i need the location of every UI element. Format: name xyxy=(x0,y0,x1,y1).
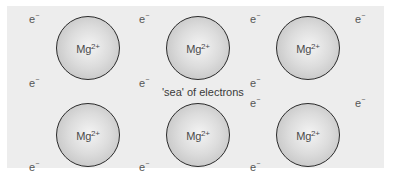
ion-charge: 2+ xyxy=(201,42,210,51)
electron: e− xyxy=(139,160,149,173)
ion-symbol: Mg xyxy=(76,130,91,142)
electron: e− xyxy=(250,96,260,109)
mg-ion: Mg2+ xyxy=(166,16,230,80)
electron: e− xyxy=(250,160,260,173)
electron: e− xyxy=(250,76,260,89)
mg-ion: Mg2+ xyxy=(276,103,340,167)
ion-charge: 2+ xyxy=(311,42,320,51)
electron: e− xyxy=(355,12,365,25)
ion-symbol: Mg xyxy=(76,43,91,55)
electron: e− xyxy=(355,96,365,109)
electron: e− xyxy=(29,12,39,25)
ion-charge: 2+ xyxy=(91,129,100,138)
electron: e− xyxy=(29,160,39,173)
mg-ion: Mg2+ xyxy=(276,16,340,80)
mg-ion: Mg2+ xyxy=(166,103,230,167)
sea-of-electrons-label: 'sea' of electrons xyxy=(162,86,244,98)
ion-charge: 2+ xyxy=(201,129,210,138)
mg-ion: Mg2+ xyxy=(56,16,120,80)
ion-symbol: Mg xyxy=(186,130,201,142)
ion-symbol: Mg xyxy=(186,43,201,55)
mg-ion: Mg2+ xyxy=(56,103,120,167)
electron: e− xyxy=(139,12,149,25)
ion-symbol: Mg xyxy=(296,43,311,55)
electron: e− xyxy=(139,76,149,89)
ion-symbol: Mg xyxy=(296,130,311,142)
ion-charge: 2+ xyxy=(311,129,320,138)
electron: e− xyxy=(250,12,260,25)
ion-charge: 2+ xyxy=(91,42,100,51)
electron: e− xyxy=(29,76,39,89)
